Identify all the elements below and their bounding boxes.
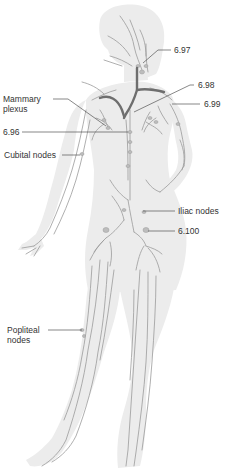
label-iliac-nodes: Iliac nodes [178,206,219,216]
label-6-98: 6.98 [198,80,215,90]
body-silhouette [18,5,193,468]
label-cubital-nodes: Cubital nodes [4,150,56,160]
label-6-100: 6.100 [178,226,199,236]
label-6-99: 6.99 [204,99,221,109]
label-6-97: 6.97 [174,45,191,55]
label-6-96: 6.96 [3,127,20,137]
label-mammary-plexus: Mammary plexus [3,94,53,114]
label-popliteal-nodes: Popliteal nodes [7,325,47,345]
